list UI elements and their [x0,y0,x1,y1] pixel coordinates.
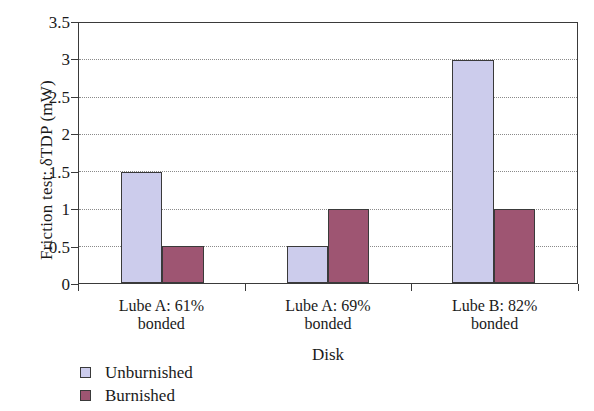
x-axis-tick-mark [411,284,412,291]
x-axis-category-label-line: bonded [411,315,578,333]
x-axis-category-label-line: bonded [245,315,412,333]
bar [328,209,369,283]
y-axis-tick-label: 3 [10,51,70,68]
bar [121,172,162,283]
y-axis-tick-label: 2 [10,126,70,143]
y-axis-tick-label: 0 [10,276,70,293]
legend-color-swatch [80,390,91,401]
y-axis-tick-label: 1.5 [10,163,70,180]
y-axis-tick-label: 1 [10,201,70,218]
x-axis-tick-mark [78,284,79,291]
y-axis-tick-label: 2.5 [10,88,70,105]
x-axis-category-label: Lube A: 69%bonded [245,297,412,333]
y-axis-tick-label: 3.5 [10,14,70,31]
legend-item: Burnished [80,384,193,407]
legend-color-swatch [80,367,91,378]
x-axis-category-label: Lube A: 61%bonded [78,297,245,333]
bars-layer [79,23,576,282]
legend-item: Unburnished [80,361,193,384]
legend-label: Burnished [105,387,175,404]
bar-chart-figure: Friction test: δTDP (mW) 00.511.522.533.… [0,0,594,411]
bar [494,209,535,283]
y-axis-tick-label: 0.5 [10,238,70,255]
bar [452,60,493,282]
x-axis-category-label-line: Lube B: 82% [411,297,578,315]
x-axis-tick-mark [245,284,246,291]
bar [287,246,328,283]
x-axis-category-label-line: Lube A: 69% [245,297,412,315]
x-axis-tick-mark [578,284,579,291]
x-axis-category-label-line: Lube A: 61% [78,297,245,315]
chart-legend: UnburnishedBurnished [80,361,193,407]
legend-label: Unburnished [105,364,193,381]
bar [162,246,203,283]
x-axis-category-label-line: bonded [78,315,245,333]
x-axis-category-label: Lube B: 82%bonded [411,297,578,333]
